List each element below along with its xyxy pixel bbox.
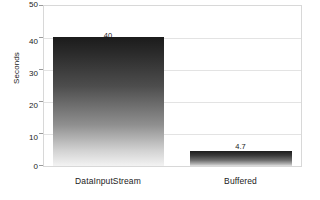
- bar-value-label-datainputstream: 40: [52, 32, 164, 40]
- bar-value-label-buffered: 4.7: [189, 143, 292, 151]
- y-tick-label-0: 0: [14, 163, 38, 171]
- y-tick-label-30: 30: [14, 70, 38, 78]
- y-tick-label-50: 50: [14, 1, 38, 9]
- y-tick-label-10: 10: [14, 134, 38, 142]
- tickmark-20: [39, 101, 43, 102]
- y-tick-label-20: 20: [14, 102, 38, 110]
- y-axis-tick-labels: 50 40 30 20 10 0: [14, 0, 38, 200]
- tickmark-10: [39, 133, 43, 134]
- tickmark-0: [39, 165, 43, 166]
- bar-chart: Seconds 50 40 30 20 10 0 40 4.7 DataInpu…: [0, 0, 320, 200]
- tickmark-30: [39, 69, 43, 70]
- y-tick-label-40: 40: [14, 38, 38, 46]
- x-tick-label-buffered: Buffered: [189, 176, 292, 186]
- x-tick-label-datainputstream: DataInputStream: [52, 176, 164, 186]
- tickmark-50: [39, 5, 43, 6]
- tickmark-40: [39, 37, 43, 38]
